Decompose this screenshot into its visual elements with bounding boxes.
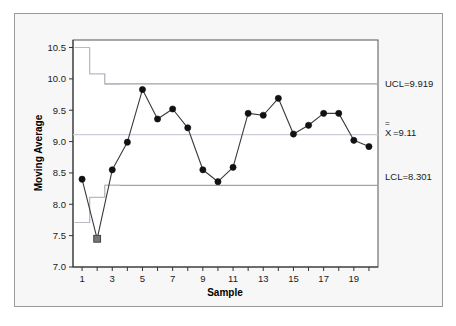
x-tick-label: 7 xyxy=(170,273,175,284)
chart-svg: 7.07.58.08.59.09.510.010.5 1357911131517… xyxy=(0,0,456,326)
x-axis-title: Sample xyxy=(207,287,243,298)
data-point-marker[interactable] xyxy=(215,179,221,185)
x-tick-label: 15 xyxy=(288,273,299,284)
center-annotation-value: =9.11 xyxy=(393,127,416,138)
x-tick-label: 13 xyxy=(258,273,269,284)
center-annotation-symbol: X xyxy=(385,127,392,138)
y-tick-label: 10.0 xyxy=(48,73,67,84)
center-line-annotation: = X =9.11 xyxy=(385,119,416,138)
x-tick-label: 3 xyxy=(110,273,115,284)
y-tick-label: 8.5 xyxy=(53,167,66,178)
data-point-marker[interactable] xyxy=(305,122,311,128)
y-tick-label: 9.5 xyxy=(53,105,66,116)
y-tick-label: 7.0 xyxy=(53,261,66,272)
data-point-marker[interactable] xyxy=(351,137,357,143)
y-axis-ticks: 7.07.58.08.59.09.510.010.5 xyxy=(48,42,74,272)
data-point-marker[interactable] xyxy=(275,95,281,101)
x-tick-label: 9 xyxy=(200,273,205,284)
y-axis-title: Moving Average xyxy=(33,114,44,191)
data-point-marker[interactable] xyxy=(230,164,236,170)
x-tick-label: 17 xyxy=(318,273,329,284)
y-tick-label: 9.0 xyxy=(53,136,66,147)
y-tick-label: 10.5 xyxy=(48,42,67,53)
y-tick-label: 7.5 xyxy=(53,230,66,241)
x-tick-label: 19 xyxy=(349,273,360,284)
control-chart: 7.07.58.08.59.09.510.010.5 1357911131517… xyxy=(0,0,456,326)
data-point-marker[interactable] xyxy=(245,110,251,116)
x-axis-ticks: 135791113151719 xyxy=(79,267,369,284)
plot-area-background xyxy=(73,40,378,267)
y-tick-label: 8.0 xyxy=(53,199,66,210)
x-tick-label: 1 xyxy=(79,273,84,284)
data-point-marker[interactable] xyxy=(336,110,342,116)
data-point-marker[interactable] xyxy=(290,131,296,137)
data-point-marker[interactable] xyxy=(79,176,85,182)
data-point-marker[interactable] xyxy=(260,112,266,118)
x-tick-label: 5 xyxy=(140,273,145,284)
data-point-marker[interactable] xyxy=(185,125,191,131)
data-point-marker[interactable] xyxy=(124,139,130,145)
data-point-marker[interactable] xyxy=(154,116,160,122)
lcl-annotation-label: LCL=8.301 xyxy=(385,171,432,182)
data-point-marker[interactable] xyxy=(200,167,206,173)
data-point-marker[interactable] xyxy=(366,144,372,150)
data-point-marker[interactable] xyxy=(109,167,115,173)
violation-point-marker[interactable] xyxy=(94,235,101,242)
x-tick-label: 11 xyxy=(228,273,238,284)
ucl-annotation-label: UCL=9.919 xyxy=(385,78,433,89)
data-point-marker[interactable] xyxy=(170,106,176,112)
data-point-marker[interactable] xyxy=(139,86,145,92)
data-point-marker[interactable] xyxy=(321,110,327,116)
